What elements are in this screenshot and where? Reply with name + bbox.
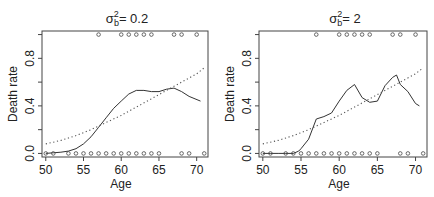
data-point [368,33,372,37]
y-tick-label: 0.8 [23,50,37,67]
data-point [202,152,206,156]
chart-sigma-0-2: 50556065700.00.40.8AgeDeath rateσ2b= 0.2… [0,0,434,197]
y-tick-label: 0.0 [240,145,254,162]
data-point [150,152,154,156]
x-tick-label: 60 [333,163,347,177]
data-point [376,152,380,156]
data-point [314,152,318,156]
x-axis-label: Age [110,177,132,191]
data-point [142,33,146,37]
chart-title: σ2b= 2 [329,9,361,28]
data-point [353,33,357,37]
data-point [157,152,161,156]
data-point [398,33,402,37]
plot-frame [42,31,208,157]
data-point [398,152,402,156]
data-point [314,33,318,37]
data-point [52,152,56,156]
data-point [345,152,349,156]
data-point [97,33,101,37]
data-point [74,152,78,156]
data-point [353,152,357,156]
y-axis-label: Death rate [223,66,237,122]
data-point [391,33,395,37]
data-point [307,152,311,156]
data-point [414,33,418,37]
x-tick-label: 50 [256,163,270,177]
data-point [172,33,176,37]
data-point [97,152,101,156]
fitted-curve-dotted [263,68,423,144]
chart-title: σ2b= 0.2 [106,9,148,28]
data-point [135,152,139,156]
data-point [421,152,425,156]
x-tick-label: 60 [115,163,129,177]
data-point [150,33,154,37]
x-tick-label: 50 [39,163,53,177]
x-axis-label: Age [328,177,350,191]
chart-panel-1: 50556065700.00.40.8AgeDeath rateσ2b= 2 [223,9,427,191]
data-point [135,33,139,37]
data-point [330,152,334,156]
data-point [89,152,93,156]
y-tick-label: 0.4 [23,97,37,114]
y-tick-label: 0.8 [240,50,254,67]
data-point [322,152,326,156]
data-point [368,152,372,156]
data-point [187,152,191,156]
data-point [195,33,199,37]
y-tick-label: 0.0 [23,145,37,162]
data-point [112,152,116,156]
x-tick-label: 70 [409,163,423,177]
x-tick-label: 55 [294,163,308,177]
chart-panel-0: 50556065700.00.40.8AgeDeath rateσ2b= 0.2 [6,9,208,191]
data-point [337,33,341,37]
data-point [127,152,131,156]
x-tick-label: 70 [190,163,204,177]
data-point [119,152,123,156]
estimate-curve-solid [46,88,201,153]
data-point [406,152,410,156]
y-tick-label: 0.4 [240,97,254,114]
data-point [360,152,364,156]
fitted-curve-dotted [46,68,204,144]
data-point [127,33,131,37]
x-tick-label: 55 [77,163,91,177]
x-tick-label: 65 [152,163,166,177]
data-point [337,152,341,156]
plot-frame [259,31,427,157]
data-point [119,33,123,37]
data-point [82,152,86,156]
data-point [180,152,184,156]
x-tick-label: 65 [371,163,385,177]
data-point [67,152,71,156]
y-axis-label: Death rate [6,66,20,122]
data-point [345,33,349,37]
data-point [104,152,108,156]
data-point [360,33,364,37]
data-point [180,33,184,37]
data-point [142,152,146,156]
charts-container: 50556065700.00.40.8AgeDeath rateσ2b= 0.2… [0,0,434,197]
data-point [299,152,303,156]
